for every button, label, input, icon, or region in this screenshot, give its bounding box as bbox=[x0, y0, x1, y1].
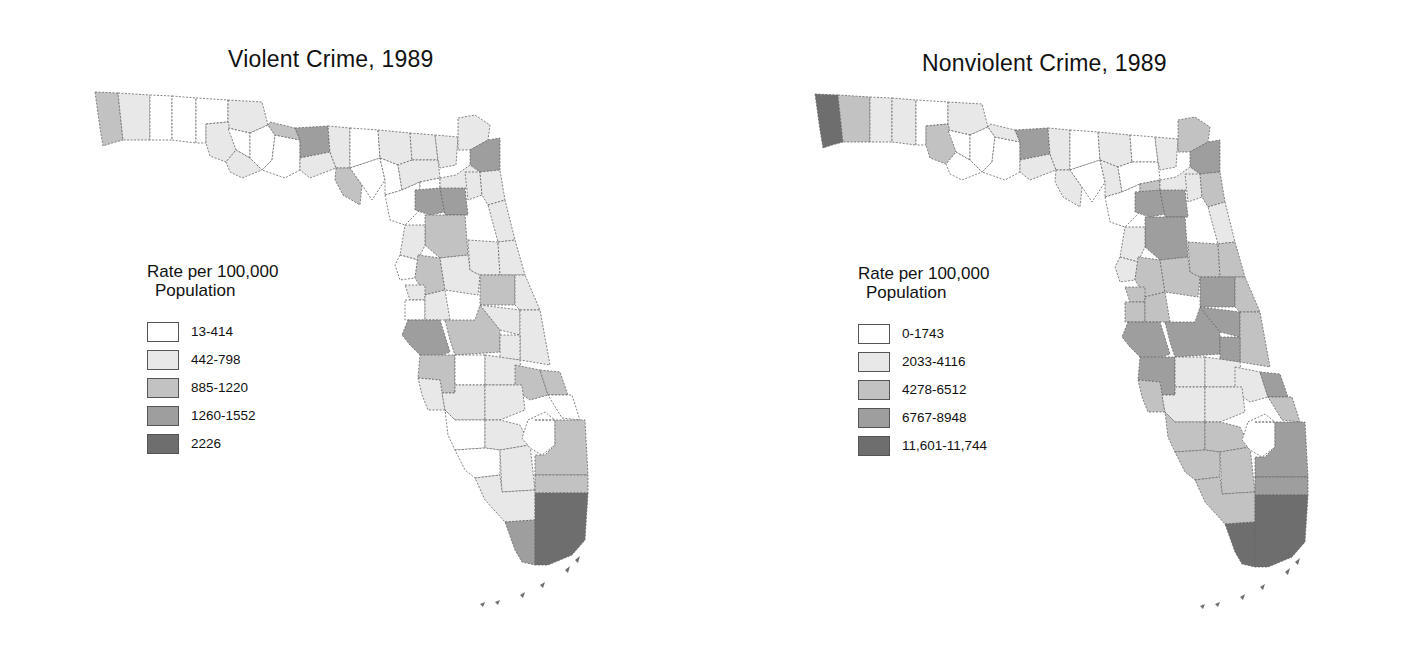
legend-title-line2: Population bbox=[147, 281, 278, 300]
legend-label: 4278-6512 bbox=[902, 382, 967, 397]
legend-label: 13-414 bbox=[191, 324, 233, 339]
legend-item: 442-798 bbox=[147, 349, 278, 370]
legend-swatch bbox=[147, 322, 179, 342]
legend-swatch bbox=[858, 352, 890, 372]
florida-county-map bbox=[0, 0, 708, 646]
legend-label: 6767-8948 bbox=[902, 410, 967, 425]
legend-item: 0-1743 bbox=[858, 323, 989, 344]
legend-label: 2226 bbox=[191, 436, 221, 451]
legend-item: 6767-8948 bbox=[858, 407, 989, 428]
legend-item: 13-414 bbox=[147, 321, 278, 342]
legend-swatch bbox=[858, 324, 890, 344]
legend-swatch bbox=[147, 350, 179, 370]
legend-title-line1: Rate per 100,000 bbox=[147, 262, 278, 281]
legend-label: 11,601-11,744 bbox=[902, 438, 987, 453]
legend-title-line1: Rate per 100,000 bbox=[858, 264, 989, 283]
florida-county-map bbox=[708, 0, 1416, 646]
legend-list: 13-414 442-798 885-1220 1260-1552 2226 bbox=[147, 321, 278, 454]
legend-item: 2033-4116 bbox=[858, 351, 989, 372]
legend-label: 2033-4116 bbox=[902, 354, 966, 369]
legend-title: Rate per 100,000 Population bbox=[147, 262, 278, 300]
legend-title-line2: Population bbox=[858, 283, 989, 302]
legend-title: Rate per 100,000 Population bbox=[858, 264, 989, 302]
legend-swatch bbox=[858, 408, 890, 428]
legend-label: 0-1743 bbox=[902, 326, 944, 341]
legend-label: 442-798 bbox=[191, 352, 241, 367]
legend-swatch bbox=[858, 436, 890, 456]
legend-swatch bbox=[858, 380, 890, 400]
legend-item: 4278-6512 bbox=[858, 379, 989, 400]
legend-swatch bbox=[147, 434, 179, 454]
legend-swatch bbox=[147, 378, 179, 398]
violent-crime-map-panel: Violent Crime, 1989 bbox=[0, 0, 708, 646]
legend-list: 0-1743 2033-4116 4278-6512 6767-8948 11,… bbox=[858, 323, 989, 456]
legend-item: 2226 bbox=[147, 433, 278, 454]
legend: Rate per 100,000 Population 0-1743 2033-… bbox=[858, 264, 989, 463]
legend: Rate per 100,000 Population 13-414 442-7… bbox=[147, 262, 278, 461]
legend-label: 885-1220 bbox=[191, 380, 248, 395]
legend-item: 885-1220 bbox=[147, 377, 278, 398]
legend-swatch bbox=[147, 406, 179, 426]
legend-label: 1260-1552 bbox=[191, 408, 256, 423]
nonviolent-crime-map-panel: Nonviolent Crime, 1989 bbox=[708, 0, 1416, 646]
legend-item: 11,601-11,744 bbox=[858, 435, 989, 456]
legend-item: 1260-1552 bbox=[147, 405, 278, 426]
